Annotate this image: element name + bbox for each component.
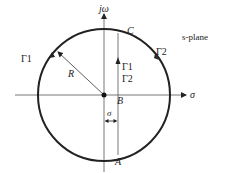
offset-arrow-right-icon: [114, 119, 118, 123]
gamma1-left-label: Γ1: [21, 53, 32, 64]
plane-title: s-plane: [182, 32, 208, 42]
offset-arrow-left-icon: [105, 119, 109, 123]
s-plane-diagram: jω σ s-plane C B A Γ1 Γ2 Γ1 Γ2 R σ: [0, 0, 225, 173]
radius-line: [58, 52, 104, 95]
gamma1-line-label: Γ1: [122, 61, 133, 72]
origin-point: [102, 93, 107, 98]
point-b-label: B: [117, 95, 123, 106]
point-a-label: A: [114, 156, 122, 167]
offset-label: σ: [107, 108, 112, 118]
imag-axis-label: jω: [97, 3, 109, 14]
radius-label: R: [67, 68, 74, 79]
diagram-svg: jω σ s-plane C B A Γ1 Γ2 Γ1 Γ2 R σ: [0, 0, 225, 173]
point-c-label: C: [127, 25, 134, 36]
gamma2-line-label: Γ2: [122, 73, 133, 84]
gamma2-right-label: Γ2: [156, 46, 167, 57]
real-axis-label: σ: [190, 89, 196, 100]
arrow-up-icon: [116, 57, 121, 64]
